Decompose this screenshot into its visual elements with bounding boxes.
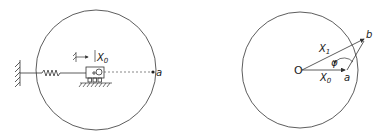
right-panel: O X1 X0 φ a b [242, 12, 372, 128]
label-b: b [366, 29, 372, 40]
spring-icon [20, 70, 86, 76]
left-panel: X0 a [15, 10, 162, 130]
diagram-canvas: X0 a O X1 X0 φ a b [0, 0, 383, 140]
label-a: a [156, 67, 162, 78]
left-circle [36, 10, 156, 130]
ground-icon [79, 83, 112, 87]
label-phi: φ [331, 57, 338, 68]
label-a: a [344, 72, 350, 83]
label-x1: X1 [318, 43, 330, 56]
displacement-indicator [73, 50, 95, 62]
label-x0: X0 [319, 72, 332, 85]
label-origin: O [294, 64, 303, 77]
label-x0: X0 [96, 52, 109, 65]
vector-ab [347, 41, 364, 70]
mass-block [86, 67, 104, 82]
point-a-dot [151, 70, 154, 73]
wall-icon [15, 60, 20, 87]
angle-arc [336, 58, 353, 62]
